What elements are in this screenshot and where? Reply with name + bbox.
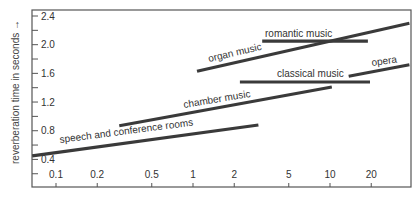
series-label: romantic music (265, 28, 332, 39)
y-tick-label: 0.8 (41, 125, 55, 136)
x-tick-label: 0.1 (49, 169, 63, 180)
chart-canvas: 0.40.81.21.62.02.40.10.20.51251020speech… (0, 0, 420, 197)
x-tick-label: 10 (324, 169, 336, 180)
y-axis-title: reverberation time in seconds → (10, 20, 21, 164)
series-label: organ music (207, 41, 263, 64)
y-tick-label: 1.2 (41, 97, 55, 108)
y-tick-label: 2.0 (41, 39, 55, 50)
x-tick-label: 20 (366, 169, 378, 180)
x-tick-label: 0.5 (145, 169, 159, 180)
series-label: classical music (277, 68, 344, 79)
series-label: opera (371, 53, 398, 68)
series-label: speech and conference rooms (59, 117, 194, 145)
y-tick-label: 1.6 (41, 68, 55, 79)
x-tick-label: 1 (190, 169, 196, 180)
x-tick-label: 5 (286, 169, 292, 180)
x-tick-label: 0.2 (90, 169, 104, 180)
x-tick-label: 2 (231, 169, 237, 180)
y-tick-label: 2.4 (41, 11, 55, 22)
